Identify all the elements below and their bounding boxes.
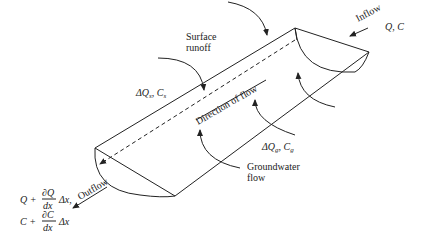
groundwater-label-line1: Groundwater bbox=[247, 161, 300, 172]
inflow-vars-label: Q, C bbox=[385, 21, 404, 32]
outflow-q-suffix: Δx, bbox=[58, 194, 72, 205]
outflow-q-prefix: Q + bbox=[20, 194, 36, 205]
outflow-c-num: ∂C bbox=[42, 209, 54, 220]
outflow-equations: Q + ∂Q dx Δx, C + ∂C dx Δx bbox=[20, 187, 72, 233]
outflow-top-edge bbox=[95, 148, 175, 196]
surface-delta-label: ΔQs, Cs bbox=[135, 87, 167, 100]
channel-bottom-edge bbox=[175, 52, 369, 196]
outflow-c-prefix: C + bbox=[20, 216, 36, 227]
groundwater-arrow-3-icon bbox=[298, 73, 335, 107]
surface-runoff-label-line2: runoff bbox=[186, 42, 211, 53]
outflow-q-num: ∂Q bbox=[42, 187, 55, 198]
inflow-cross-section bbox=[295, 28, 369, 72]
channel-body bbox=[95, 28, 369, 197]
surface-runoff-arrow-2-icon bbox=[158, 58, 204, 90]
surface-runoff-arrow-icon bbox=[228, 2, 267, 35]
inflow-arrow-icon bbox=[350, 28, 368, 36]
inflow-label: Inflow bbox=[354, 1, 383, 24]
groundwater-arrow-icon bbox=[255, 100, 295, 135]
groundwater-delta-label: ΔQg, Cg bbox=[261, 141, 294, 154]
outflow-c-den: dx bbox=[43, 222, 53, 233]
stream-segment-diagram: Inflow Q, C Surface runoff ΔQs, Cs Direc… bbox=[0, 0, 422, 239]
surface-runoff-label-line1: Surface bbox=[186, 31, 217, 42]
inflow-top-edge bbox=[295, 28, 369, 52]
inflow-tick bbox=[295, 28, 297, 40]
outflow-c-suffix: Δx bbox=[58, 216, 70, 227]
groundwater-label-line2: flow bbox=[247, 172, 266, 183]
